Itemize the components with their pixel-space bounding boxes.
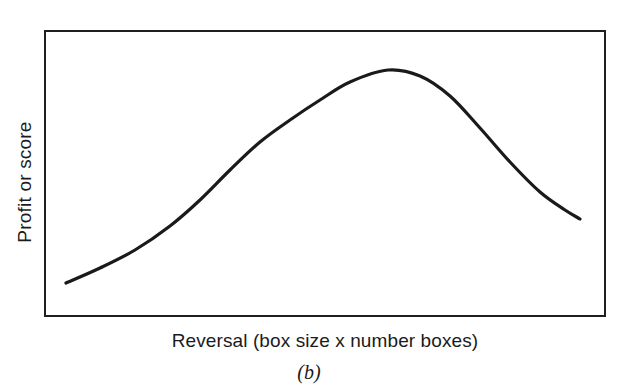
figure-panel: Profit or score Reversal (box size x num… — [0, 0, 623, 389]
figure-caption: (b) — [44, 361, 574, 384]
plot-frame — [44, 30, 606, 317]
x-axis-label: Reversal (box size x number boxes) — [44, 330, 606, 352]
y-axis-label: Profit or score — [8, 52, 42, 312]
